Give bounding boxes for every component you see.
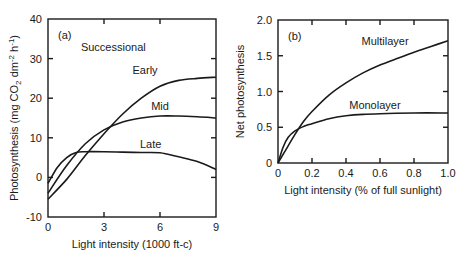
y-tick-label: 40 — [30, 13, 42, 25]
curve-label-mid: Mid — [151, 100, 169, 112]
curve-label-multilayer: Multilayer — [362, 35, 409, 47]
x-tick-label: 6 — [157, 221, 163, 233]
x-axis-label: Light intensity (% of full sunlight) — [284, 184, 442, 196]
x-tick-label: 0.2 — [304, 167, 319, 179]
panel-label: (a) — [58, 29, 71, 41]
y-axis-label: Photosynthesis (mg CO2 dm-2 h-1) — [7, 35, 23, 201]
y-tick-label: 0 — [36, 171, 42, 183]
annotation-successional: Successional — [81, 41, 146, 53]
x-tick-label: 0.6 — [372, 167, 387, 179]
x-tick-label: 1.0 — [440, 167, 455, 179]
y-tick-label: 1.5 — [257, 50, 272, 62]
curve-label-monolayer: Monolayer — [349, 99, 401, 111]
panel-label: (b) — [288, 30, 301, 42]
x-tick-label: 0 — [45, 221, 51, 233]
x-tick-label: 0 — [275, 167, 281, 179]
y-tick-label: 30 — [30, 53, 42, 65]
y-axis-label: Net photosynthesis — [234, 44, 246, 138]
x-tick-label: 9 — [213, 221, 219, 233]
y-tick-label: 1.0 — [257, 86, 272, 98]
panel-a-chart: 0369-10010203040Light intensity (1000 ft… — [7, 13, 219, 250]
panel-b-chart: 00.20.40.60.81.000.51.01.52.0Light inten… — [234, 14, 456, 196]
curve-mid — [48, 116, 216, 193]
x-tick-label: 0.4 — [338, 167, 353, 179]
y-tick-label: 10 — [30, 132, 42, 144]
figure: 0369-10010203040Light intensity (1000 ft… — [0, 0, 465, 260]
y-tick-label: 0.5 — [257, 121, 272, 133]
curve-early — [48, 77, 216, 199]
x-tick-label: 0.8 — [406, 167, 421, 179]
y-tick-label: -10 — [26, 211, 42, 223]
curve-label-late: Late — [140, 138, 161, 150]
curve-label-early: Early — [133, 64, 159, 76]
y-tick-label: 20 — [30, 92, 42, 104]
y-tick-label: 0 — [266, 157, 272, 169]
x-tick-label: 3 — [101, 221, 107, 233]
y-tick-label: 2.0 — [257, 14, 272, 26]
x-axis-label: Light intensity (1000 ft-c) — [72, 238, 192, 250]
